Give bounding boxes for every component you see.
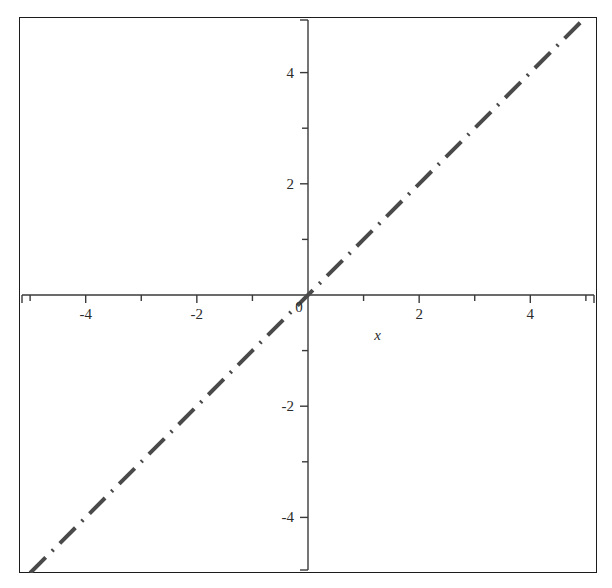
x-tick-label: -4 (79, 307, 92, 322)
plot-figure: -4-2024 -4-224 x (0, 0, 612, 588)
y-tick-label: -2 (282, 399, 295, 414)
y-tick-label: 4 (287, 65, 295, 80)
x-tick-label: 4 (527, 307, 535, 322)
x-tick-label: 2 (415, 307, 423, 322)
x-tick-label: -2 (191, 307, 204, 322)
plot-canvas (19, 17, 597, 573)
x-tick-label: 0 (295, 300, 303, 315)
y-tick-label: -4 (282, 510, 295, 525)
x-axis-label: x (374, 328, 381, 343)
y-tick-label: 2 (287, 176, 295, 191)
